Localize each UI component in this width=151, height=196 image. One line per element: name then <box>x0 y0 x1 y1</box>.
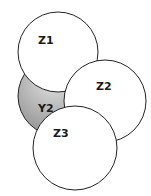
label-z1: Z1 <box>38 34 54 47</box>
label-z3: Z3 <box>53 127 69 140</box>
label-z2: Z2 <box>96 80 112 93</box>
circle-z3: Z3 <box>33 106 117 190</box>
circle-diagram: Z1 Z2 Y2 Z3 <box>0 0 151 196</box>
